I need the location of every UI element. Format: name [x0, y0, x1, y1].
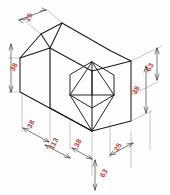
dimension-bottom-depth: 63: [93, 160, 110, 190]
isometric-drawing: 25 38 38 113 38: [0, 0, 170, 195]
dimension-bottom-overall: 113: [45, 136, 70, 158]
dimension-right-lower-height: 38: [130, 66, 148, 113]
dimension-value-38-right: 38: [130, 84, 142, 96]
dimension-top-chamfer-width: 25: [19, 8, 46, 23]
technical-drawing-canvas: 25 38 38 113 38: [0, 0, 170, 195]
dimension-bottom-right-near: 25: [110, 141, 133, 155]
dimension-bottom-left-last: 38: [72, 137, 92, 159]
dimension-value-113: 113: [47, 136, 61, 151]
dimension-value-25-bottom-right: 25: [112, 141, 124, 153]
dimension-value-63-bottom: 63: [98, 167, 110, 179]
dimension-value-38-bottom-left: 38: [25, 118, 37, 130]
dimension-bottom-left-first: 38: [23, 118, 49, 142]
dimension-value-38-bottom-center: 38: [72, 137, 84, 149]
dimension-value-38-left: 38: [8, 61, 20, 73]
dimension-left-chamfer-height: 38: [8, 44, 20, 92]
